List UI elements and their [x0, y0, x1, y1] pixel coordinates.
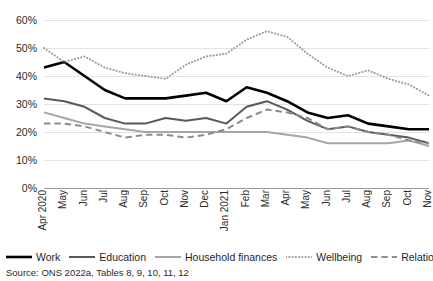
y-tick-label: 20% — [16, 126, 37, 138]
y-tick-label: 50% — [16, 42, 37, 54]
series-line-wellbeing — [44, 31, 429, 95]
x-axis-line — [44, 188, 429, 189]
legend-swatch-household_finances — [155, 252, 181, 262]
x-tick-label: Feb — [240, 190, 254, 207]
x-tick-label: Oct — [159, 190, 173, 206]
x-tick-label: Aug — [361, 190, 375, 208]
x-tick-label: Mar — [260, 190, 274, 207]
x-tick-label: Sep — [138, 190, 152, 208]
x-tick-label: Jul — [98, 190, 112, 203]
x-tick-label: Sep — [381, 190, 395, 208]
x-tick-label: Dec — [199, 190, 213, 208]
legend-label-household_finances: Household finances — [185, 252, 277, 263]
legend-swatch-work — [6, 252, 32, 262]
x-tick-label: Nov — [179, 190, 193, 208]
legend-item-household_finances[interactable]: Household finances — [155, 252, 277, 263]
legend-label-wellbeing: Wellbeing — [316, 252, 362, 263]
legend-swatch-education — [69, 252, 95, 262]
legend-item-work[interactable]: Work — [6, 252, 60, 263]
x-tick-label: Jan 2021 — [219, 190, 233, 231]
chart-title — [24, 0, 324, 4]
x-tick-label: Jun — [78, 190, 92, 206]
y-tick-label: 30% — [16, 98, 37, 110]
legend-label-relationships: Relationships — [401, 252, 433, 263]
x-tick-label: Apr — [280, 190, 294, 206]
x-tick-label: Jul — [341, 190, 355, 203]
legend-item-education[interactable]: Education — [69, 252, 146, 263]
x-tick-label: May — [57, 190, 71, 209]
legend-swatch-relationships — [371, 252, 397, 262]
plot-area — [44, 20, 429, 188]
chart-legend: WorkEducationHousehold financesWellbeing… — [6, 249, 431, 265]
x-tick-label: Jun — [321, 190, 335, 206]
y-tick-label: 10% — [16, 154, 37, 166]
x-tick-label: Nov — [422, 190, 433, 208]
legend-item-relationships[interactable]: Relationships — [371, 252, 433, 263]
x-tick-label: Oct — [402, 190, 416, 206]
legend-label-education: Education — [99, 252, 146, 263]
series-group — [44, 20, 429, 188]
y-tick-label: 0% — [22, 182, 37, 194]
series-line-education — [44, 98, 429, 143]
y-tick-label: 40% — [16, 70, 37, 82]
source-note: Source: ONS 2022a, Tables 8, 9, 10, 11, … — [6, 267, 189, 278]
legend-item-wellbeing[interactable]: Wellbeing — [286, 252, 362, 263]
x-axis: Apr 2020MayJunJulAugSepOctNovDecJan 2021… — [44, 190, 429, 246]
x-tick-label: Apr 2020 — [37, 190, 51, 231]
x-tick-label: May — [300, 190, 314, 209]
chart-figure: 0%10%20%30%40%50%60% Apr 2020MayJunJulAu… — [0, 0, 433, 281]
y-tick-label: 60% — [16, 14, 37, 26]
legend-label-work: Work — [36, 252, 60, 263]
y-axis: 0%10%20%30%40%50%60% — [0, 20, 42, 188]
x-tick-label: Aug — [118, 190, 132, 208]
legend-swatch-wellbeing — [286, 252, 312, 262]
